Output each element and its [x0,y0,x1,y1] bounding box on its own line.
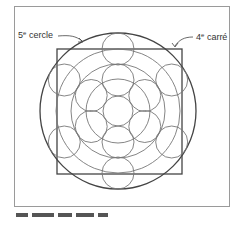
square-pointer-arrow [175,37,193,46]
concentric-circle-2 [71,64,165,158]
circle-label-word: cercle [29,30,53,40]
outer-ring-circles [48,33,187,189]
square-label-suffix: e [201,32,204,38]
square-label: 4e carré [196,32,227,42]
outer-circle [40,33,196,189]
square-arrowhead-icon [172,43,178,47]
inner-ring-circles [75,64,161,158]
square-label-word: carré [207,32,228,42]
figure-caption-clipped [16,213,216,219]
circle-pointer-arrow [58,36,82,41]
circle-label: 5e cercle [18,30,53,40]
center-circle [103,96,133,126]
circle-label-suffix: e [23,30,26,36]
